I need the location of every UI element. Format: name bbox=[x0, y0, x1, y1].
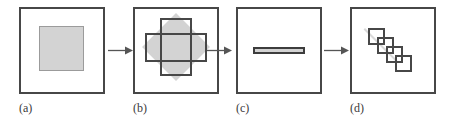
panel-a-frame bbox=[19, 7, 105, 94]
gray-square-shape bbox=[39, 26, 84, 71]
arrow-b-to-c-icon bbox=[207, 45, 233, 56]
panel-b-caption: (b) bbox=[133, 101, 147, 115]
panel-d-frame bbox=[350, 7, 436, 94]
thin-horizontal-bar-shape bbox=[253, 47, 305, 54]
panel-d-caption: (d) bbox=[350, 101, 364, 115]
panel-b-content bbox=[135, 9, 217, 92]
panel-a-content bbox=[21, 9, 103, 92]
small-square-4-shape bbox=[395, 55, 412, 72]
arrow-c-to-d-icon bbox=[324, 45, 350, 56]
arrow-a-to-b-icon bbox=[108, 45, 134, 56]
panel-c-caption: (c) bbox=[236, 101, 249, 115]
panel-c-content bbox=[238, 9, 320, 92]
panel-c-frame bbox=[236, 7, 322, 94]
panel-d-content bbox=[352, 9, 434, 92]
vertical-rectangle-shape bbox=[160, 18, 192, 76]
figure-container: (a) (b) (c) (d) bbox=[0, 0, 458, 123]
panel-a-caption: (a) bbox=[19, 101, 32, 115]
